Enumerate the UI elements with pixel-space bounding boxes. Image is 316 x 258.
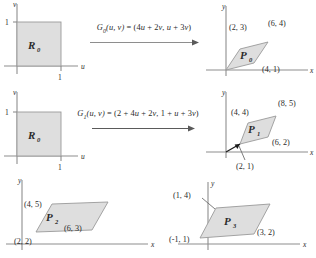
x-axis-label: u [81,152,85,161]
vertex-label-2-1: (2, 1) [236,162,254,171]
x-tick-label-1: 1 [58,163,62,172]
leader-2-1 [239,146,245,160]
vertex-label-6-4: (6, 4) [268,19,286,28]
y-axis-label: v [13,88,17,97]
vertex-label-2-3: (2, 3) [229,23,247,32]
y-axis-label: y [221,2,226,11]
region-label-p0: P [240,49,247,61]
region-label-r0: R [27,129,35,141]
x-axis-label: x [309,148,314,157]
y-tick-label-1: 1 [5,108,9,117]
arrow-g0 [86,39,202,46]
y-axis-label: y [221,88,226,97]
vertex-label-4-5: (4, 5) [24,200,42,209]
panel-domain-r0-top: v u 1 1 R 0 [0,0,90,86]
mapping-g0: G0(u, v) = (4u + 2v, u + 3v) [86,24,202,50]
panel-image-p2: y x (4, 5) (6, 3) (2, 2) P 2 [0,176,158,258]
vertex-label-8-5: (8, 5) [278,99,296,108]
x-tick-label-1: 1 [58,73,62,82]
arrow-head [188,125,195,131]
y-axis-label: v [13,0,17,9]
region-label-r0: R [27,39,35,51]
x-axis-label: x [302,240,307,249]
formula-g0: G0(u, v) = (4u + 2v, u + 3v) [97,24,191,34]
panel-image-p3: y x (1, 4) (3, 2) (-1, 1) P 3 [158,176,316,258]
y-axis-label: y [210,179,215,188]
unit-square-region [17,112,61,156]
region-label-p3: P [224,215,231,227]
vertex-label-6-2: (6, 2) [272,138,290,147]
region-label-p1: P [248,123,255,135]
x-axis-label: u [81,62,85,71]
x-axis-label: x [309,66,314,75]
arrow-g1 [70,125,206,132]
x-axis-label: x [150,240,155,249]
vertex-label-2-2: (2, 2) [14,237,32,246]
vertex-label-6-3: (6, 3) [64,224,82,233]
vertex-label-minus1-1: (-1, 1) [169,235,190,244]
unit-square-region [17,22,61,66]
vertex-label-4-1: (4, 1) [262,65,280,74]
y-tick-label-1: 1 [5,18,9,27]
vertex-label-4-4: (4, 4) [231,108,249,117]
panel-image-p1: y x (4, 4) (8, 5) (6, 2) (2, 1) P 1 [196,86,316,176]
region-label-p2: P [46,211,53,223]
vertex-label-1-4: (1, 4) [173,191,191,200]
vertex-label-3-2: (3, 2) [257,228,275,237]
panel-image-p0: y x (2, 3) (6, 4) (4, 1) P 0 [196,0,316,86]
y-axis-label: y [17,176,22,185]
formula-g1: G1(u, v) = (2 + 4u + 2v, 1 + u + 3v) [77,110,198,120]
mapping-g1: G1(u, v) = (2 + 4u + 2v, 1 + u + 3v) [70,110,206,136]
region-sublabel-p1: 1 [257,130,260,137]
